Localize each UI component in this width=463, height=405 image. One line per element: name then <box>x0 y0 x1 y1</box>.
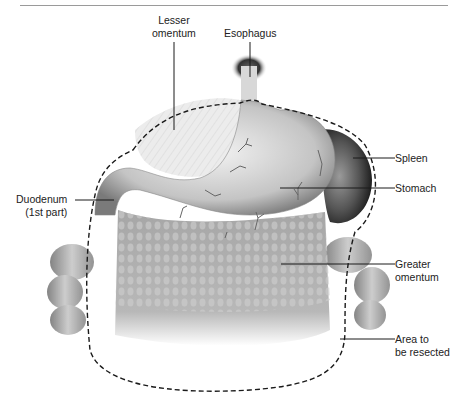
colon-right <box>324 237 390 330</box>
label-stomach: Stomach <box>395 182 436 195</box>
label-duodenum: Duodenum (1st part) <box>16 193 67 219</box>
label-lesser-omentum: Lesser omentum <box>152 14 196 40</box>
label-esophagus: Esophagus <box>224 27 277 40</box>
label-area-resected: Area to be resected <box>395 333 450 359</box>
label-greater-omentum: Greater omentum <box>395 258 439 284</box>
label-spleen: Spleen <box>395 152 428 165</box>
stomach-illustration <box>0 0 463 405</box>
